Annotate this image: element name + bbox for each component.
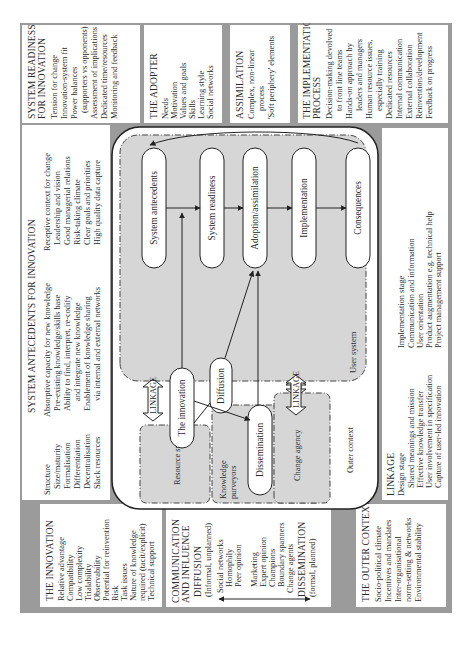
assimilation-box: ASSIMILATION Complex, non-linear process… [230,25,290,123]
readiness-item: Dedicated time/resources [100,34,109,119]
antecedent-item: Good managerial relations [63,156,72,245]
antecedent-item: Risk-taking climate [73,179,82,245]
adopter-item: Values and goals [179,63,188,119]
adopter-item: Social networks [206,65,215,119]
innovation-item: Trialability [84,563,93,601]
node-label: Consequences [353,181,363,235]
linkage-item: Product augmentation e.g. technical help [425,211,434,348]
antecedent-item: Decentralisation [83,433,92,489]
implementation-item: Feedback on progress [425,46,434,119]
antecedent-item: Differentiation [73,439,82,489]
innovation-box: THE INNOVATION Relative advantage Compat… [40,504,162,607]
linkage-box: LINKAGE Design stage Shared meanings and… [382,128,448,500]
node-adoption-assimilation: Adoption/assimilation [243,148,267,268]
innovation-item: Technical support [147,541,156,601]
node-label: System readiness [207,175,217,240]
implementation-item: Human resource issues, [365,40,374,119]
antecedent-item: Structure [43,464,52,495]
antecedent-item: and integrate new knowledge [73,302,82,401]
communication-item: Marketing [250,551,259,587]
adopter-item: Skills [188,100,197,119]
linkage-label-upper: LINKAGE [149,377,158,414]
readiness-item: Innovation-system fit [60,46,69,119]
outer-context-item: Environmental stability [414,522,423,602]
readiness-item: Power balances [70,67,79,119]
node-label: System antecedents [149,171,159,245]
communication-item: Peer opinion [234,544,243,587]
implementation-item: Hands-on approach by [345,42,354,119]
linkage-label-lower: LINKAGE [292,371,301,408]
implementation-item: especially training [375,49,384,111]
adopter-item: Learning style [197,71,206,119]
linkage-item: Capture of user-led innovation [434,385,443,488]
linkage-item: Project management support [434,252,443,348]
implementation-stage-heading: Implementation stage [397,275,406,348]
node-label: Dissemination [255,423,265,477]
antecedent-item: Receptive context for change [43,153,52,251]
adopter-title: THE ADOPTER [148,53,159,119]
outer-context-label: Outer context [346,427,355,473]
communication-item: Expert opinion [259,536,268,587]
antecedent-item: Pre-existing knowledge/skills base [53,294,62,411]
node-dissemination: Dissemination [248,405,272,495]
outer-context-item: Inter-organisational [394,536,403,602]
system-antecedents-box: SYSTEM ANTECEDENTS FOR INNOVATION Struct… [22,125,110,500]
assimilation-item: Complex, non-linear [247,49,256,119]
knowledge-purveyors-label: purveyors [229,466,238,500]
communication-title: AND INFLUENCE [180,525,191,603]
antecedent-item: High quality data capture [93,160,102,245]
outer-context-item: norm-setting & networks [404,518,413,602]
innovation-item: Compatibility [66,554,75,601]
linkage-item: User involvement in specification [425,374,434,488]
antecedent-item: Enablement of knowledge sharing [83,296,92,411]
diffusion-heading: DIFFUSION [192,546,203,597]
antecedent-item: Formalisation [63,442,72,489]
node-system-antecedents: System antecedents [142,148,166,268]
diffusion-subheading: (Informal, unplanned) [204,523,213,597]
node-system-readiness: System readiness [200,148,224,268]
innovation-title: THE INNOVATION [44,520,55,601]
design-stage-heading: Design stage [397,453,406,496]
innovation-item: Relative advantage [57,537,66,601]
linkage-item: User orientation [416,293,425,348]
node-label: The innovation [177,379,187,436]
outer-context-item: Socio-political climate [374,526,383,602]
node-label: Diffusion [216,368,226,404]
innovation-item: Task issues [120,563,129,601]
outer-context-item: Incentives and mandates [384,520,393,602]
linkage-item: Communication and information [407,237,416,348]
system-antecedents-title: SYSTEM ANTECEDENTS FOR INNOVATION [26,219,37,413]
communication-item: Boundary spanners [277,523,286,587]
node-consequences: Consequences [346,148,370,268]
linkage-item: Effective knowledge transfer [416,391,425,488]
linkage-title: LINKAGE [385,453,396,496]
innovation-item: Potential for reinvention [102,518,111,601]
assimilation-title: ASSIMILATION [234,51,245,119]
communication-item: Change agents [286,544,295,593]
implementation-item: Dedicated resources [385,51,394,119]
node-implementation: Implementation [292,148,316,268]
adopter-item: Needs [161,98,170,119]
innovation-item: Observability [93,555,102,601]
node-diffusion: Diffusion [210,358,232,413]
readiness-item: Assessment of implications [90,27,99,119]
implementation-item: to front line teams [335,50,344,111]
antecedent-item: Clear goals and priorities [83,161,92,245]
adopter-box: THE ADOPTER Needs Motivation Values and … [144,25,222,123]
dissemination-subheading: (formal, planned) [308,538,317,597]
innovation-item: required (tacit/explicit) [138,523,147,601]
communication-item: Homophily [225,548,234,587]
antecedent-item: Slack resources [93,437,102,489]
implementation-item: Reinvention/development [415,32,424,119]
linkage-item: Shared meanings and mission [407,387,416,488]
central-model: User system Resource system Knowledge pu… [112,127,378,509]
adopter-item: Motivation [170,81,179,119]
knowledge-purveyors-label: Knowledge [219,460,228,499]
readiness-item: (supporters vs opponents) [80,26,89,113]
user-system-label: User system [349,331,358,373]
outer-context-box: THE OUTER CONTEXT Socio-political climat… [356,500,446,607]
implementation-item: Decision-making devolved [325,28,334,119]
innovation-item: Nature of knowledge [129,530,138,601]
readiness-item: Monitoring and feedback [110,34,119,119]
readiness-item: Tension for change [50,55,59,119]
